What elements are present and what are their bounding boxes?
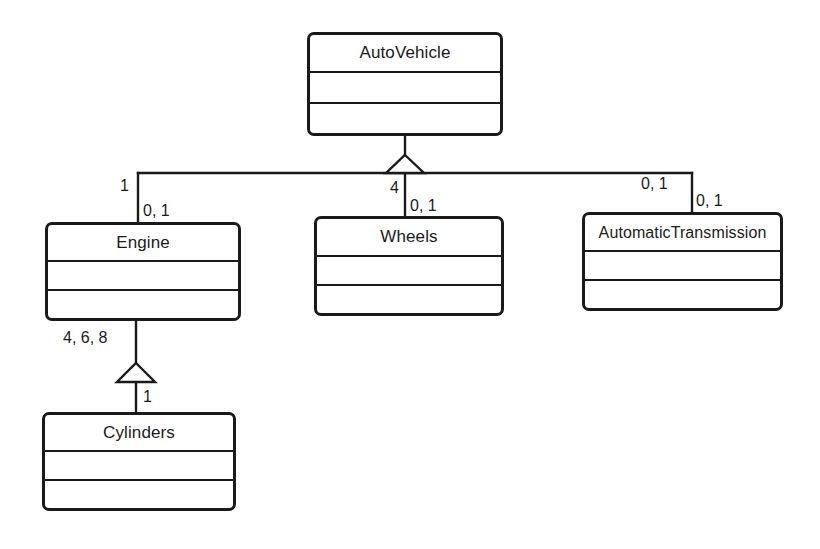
generalization-arrow-autovehicle [386, 155, 424, 173]
class-name-wheels: Wheels [317, 219, 501, 257]
class-box-wheels[interactable]: Wheels [314, 216, 504, 316]
class-box-engine[interactable]: Engine [45, 222, 241, 321]
class-operations-autovehicle [310, 104, 500, 135]
class-name-engine: Engine [48, 225, 238, 262]
multiplicity-transmission-upper: 0, 1 [641, 176, 668, 192]
class-operations-engine [48, 291, 238, 320]
class-name-autovehicle: AutoVehicle [310, 35, 500, 73]
multiplicity-wheels-upper: 4 [390, 180, 399, 196]
uml-class-diagram: AutoVehicle Engine Wheels AutomaticTrans… [0, 0, 820, 549]
class-name-cylinders: Cylinders [45, 415, 233, 452]
class-box-automatictransmission[interactable]: AutomaticTransmission [582, 212, 783, 311]
class-name-automatictransmission: AutomaticTransmission [585, 215, 780, 252]
multiplicity-engine-lower: 0, 1 [143, 203, 170, 219]
class-operations-automatictransmission [585, 281, 780, 310]
class-attributes-engine [48, 262, 238, 291]
class-box-autovehicle[interactable]: AutoVehicle [307, 32, 503, 136]
multiplicity-wheels-lower: 0, 1 [410, 198, 437, 214]
multiplicity-engine-upper: 1 [120, 178, 129, 194]
generalization-arrow-cylinders [117, 363, 155, 382]
class-attributes-autovehicle [310, 73, 500, 104]
multiplicity-cylinders-upper: 4, 6, 8 [63, 330, 107, 346]
class-attributes-wheels [317, 257, 501, 286]
class-box-cylinders[interactable]: Cylinders [42, 412, 236, 511]
multiplicity-cylinders-lower: 1 [143, 389, 152, 405]
class-attributes-cylinders [45, 452, 233, 481]
class-operations-wheels [317, 286, 501, 315]
multiplicity-transmission-lower: 0, 1 [696, 193, 723, 209]
class-operations-cylinders [45, 481, 233, 510]
class-attributes-automatictransmission [585, 252, 780, 281]
